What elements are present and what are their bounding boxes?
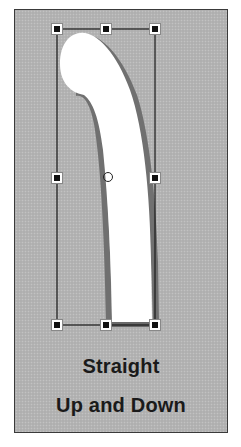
caption-line-2: Up and Down — [14, 394, 228, 417]
artwork-canvas — [0, 0, 241, 447]
handle-top-left[interactable] — [52, 24, 62, 34]
handle-middle-right[interactable] — [150, 173, 160, 183]
handle-top-center[interactable] — [101, 24, 111, 34]
handle-bottom-center[interactable] — [101, 320, 111, 330]
caption-line-1: Straight — [14, 355, 228, 378]
handle-bottom-left[interactable] — [52, 320, 62, 330]
handle-bottom-right[interactable] — [150, 320, 160, 330]
rotation-pivot-icon[interactable] — [103, 172, 113, 182]
handle-middle-left[interactable] — [52, 173, 62, 183]
handle-top-right[interactable] — [150, 24, 160, 34]
